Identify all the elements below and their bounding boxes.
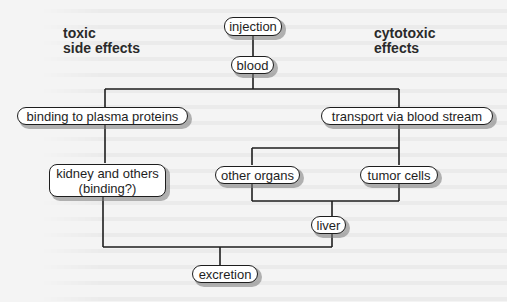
node-transport-blood-stream: transport via blood stream <box>321 107 493 125</box>
node-binding-plasma-proteins: binding to plasma proteins <box>17 107 188 125</box>
node-kidney-and-others: kidney and others (binding?) <box>49 164 166 197</box>
node-injection: injection <box>224 17 282 36</box>
node-tumor-cells: tumor cells <box>360 166 438 184</box>
node-other-organs: other organs <box>215 166 300 184</box>
node-blood: blood <box>231 56 274 74</box>
node-liver: liver <box>311 216 346 234</box>
cytotoxic-effects-label: cytotoxic effects <box>374 26 435 56</box>
toxic-side-effects-label: toxic side effects <box>63 26 140 56</box>
flowchart-canvas: toxic side effects cytotoxic effects inj… <box>0 0 507 302</box>
node-excretion: excretion <box>192 265 258 283</box>
